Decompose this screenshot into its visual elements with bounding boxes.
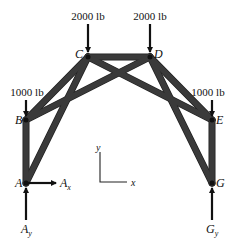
joint-label-E: E [215, 113, 224, 127]
joint-E [210, 118, 215, 123]
member-DB [26, 57, 150, 120]
load-label-E: 1000 lb [191, 86, 225, 98]
joint-D [148, 55, 153, 60]
load-label-D: 2000 lb [133, 10, 167, 22]
axis-label-y: y [95, 142, 101, 153]
load-label-B: 1000 lb [10, 86, 44, 98]
joint-label-C: C [75, 47, 84, 61]
reaction-label-Ax: Ax [59, 176, 71, 192]
joint-B [24, 118, 29, 123]
axes-lines [100, 152, 127, 182]
joint-C [86, 55, 91, 60]
joint-A [24, 181, 29, 186]
joint-label-A: A [14, 176, 23, 190]
joint-labels: A B C D E G [14, 47, 225, 190]
axis-label-x: x [130, 177, 136, 188]
joint-label-B: B [15, 113, 23, 127]
truss-diagram: 2000 lb 2000 lb 1000 lb 1000 lb Ax Ay Gy… [0, 0, 232, 241]
load-label-C: 2000 lb [71, 10, 105, 22]
joint-label-G: G [216, 176, 225, 190]
joint-G [210, 181, 215, 186]
member-DG [150, 57, 212, 183]
reactions: Ax Ay Gy [20, 176, 219, 238]
reaction-label-Gy: Gy [206, 222, 219, 238]
joint-label-D: D [153, 47, 163, 61]
member-outlines [26, 57, 212, 183]
coordinate-axes: y x [95, 142, 136, 188]
truss-members [26, 57, 212, 183]
member-CA [26, 57, 88, 183]
reaction-label-Ay: Ay [20, 222, 32, 238]
